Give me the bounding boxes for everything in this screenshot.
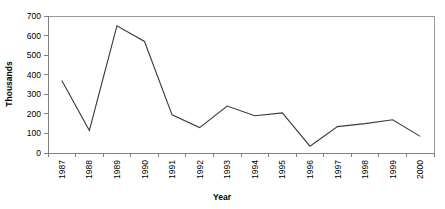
chart-canvas: 0 100 200 300 400 500 600 700 Thousands … [0,0,445,209]
x-axis-ticks [48,153,434,157]
x-axis-title: Year [213,192,232,202]
y-tick-label: 300 [27,89,41,99]
x-tick-label: 1991 [167,160,177,179]
y-axis-ticks [44,16,48,153]
x-tick-label: 1997 [333,160,343,179]
x-tick-label: 1988 [84,160,94,179]
x-tick-label: 1990 [140,160,150,179]
x-tick-label: 1998 [360,160,370,179]
x-tick-label: 1993 [222,160,232,179]
y-tick-label: 400 [27,70,41,80]
x-tick-label: 1994 [250,160,260,179]
x-tick-label: 1992 [195,160,205,179]
y-tick-label: 700 [27,11,41,21]
y-axis-title: Thousands [4,61,14,107]
y-tick-label: 100 [27,128,41,138]
x-axis-tick-labels: 1987198819891990199119921993199419951996… [57,160,425,179]
x-tick-label: 1996 [305,160,315,179]
x-tick-label: 2000 [415,160,425,179]
y-tick-label: 200 [27,109,41,119]
x-tick-label: 1995 [277,160,287,179]
plot-background [48,16,434,153]
x-tick-label: 1987 [57,160,67,179]
y-tick-label: 500 [27,50,41,60]
y-axis-tick-labels: 0 100 200 300 400 500 600 700 [27,11,41,158]
x-tick-label: 1999 [388,160,398,179]
line-chart-figure: 0 100 200 300 400 500 600 700 Thousands … [0,0,445,209]
y-tick-label: 600 [27,31,41,41]
x-tick-label: 1989 [112,160,122,179]
y-tick-label: 0 [36,148,41,158]
